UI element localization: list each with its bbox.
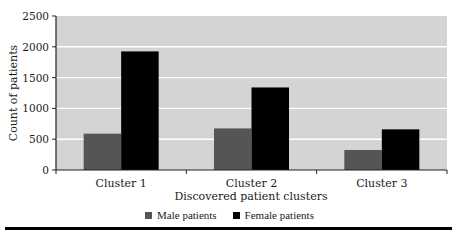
x-tick-label: Cluster 1 <box>95 177 146 190</box>
bar-chart: 05001000150020002500 Cluster 1Cluster 2C… <box>0 0 459 233</box>
legend: Male patients Female patients <box>0 207 459 223</box>
legend-label-male: Male patients <box>157 209 217 221</box>
bar-female-patients-2 <box>252 87 290 170</box>
y-tick-label: 500 <box>29 133 49 145</box>
chart-canvas: 05001000150020002500 Cluster 1Cluster 2C… <box>0 0 459 233</box>
y-tick-label: 2000 <box>22 41 49 53</box>
female-swatch-icon <box>233 212 240 219</box>
bar-male-patients-1 <box>84 134 122 170</box>
legend-item-male: Male patients <box>145 209 217 221</box>
x-tick-label: Cluster 2 <box>226 177 277 190</box>
x-axis-title: Discovered patient clusters <box>174 190 327 203</box>
bar-male-patients-3 <box>344 150 382 170</box>
male-swatch-icon <box>145 212 152 219</box>
y-tick-label: 0 <box>42 164 49 176</box>
bottom-rule-divider <box>5 227 452 230</box>
bar-female-patients-3 <box>382 129 420 170</box>
legend-label-female: Female patients <box>245 209 314 221</box>
y-tick-label: 2500 <box>22 10 49 22</box>
x-tick-label: Cluster 3 <box>356 177 407 190</box>
bar-female-patients-1 <box>121 51 158 170</box>
bar-male-patients-2 <box>214 128 252 170</box>
legend-item-female: Female patients <box>233 209 314 221</box>
y-tick-label: 1000 <box>22 102 49 114</box>
x-axis-ticks: Cluster 1Cluster 2Cluster 3 <box>56 170 447 190</box>
y-axis-title: Count of patients <box>7 44 20 141</box>
y-axis-ticks: 05001000150020002500 <box>22 10 56 176</box>
y-tick-label: 1500 <box>22 72 49 84</box>
